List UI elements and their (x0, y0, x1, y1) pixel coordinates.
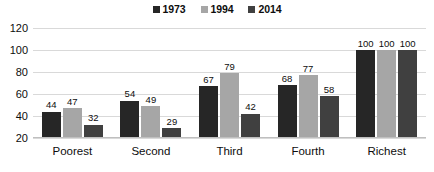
bar-slot: 100 (356, 28, 375, 138)
x-axis-category-label: Second (112, 141, 191, 161)
bar[interactable] (120, 101, 139, 138)
bar-value-label: 47 (67, 97, 78, 107)
y-axis-tick-label: 40 (16, 111, 28, 122)
bar-group: 100100100 (347, 28, 426, 138)
gridline (33, 138, 426, 139)
bar-value-label: 100 (358, 39, 374, 49)
bar-value-label: 67 (203, 75, 214, 85)
legend-swatch-icon-2014 (248, 6, 255, 13)
bar-slot: 44 (42, 28, 61, 138)
bar-group: 687758 (269, 28, 348, 138)
bar-slot: 42 (241, 28, 260, 138)
bar-slot: 49 (141, 28, 160, 138)
bar-value-label: 77 (303, 64, 314, 74)
bar[interactable] (278, 85, 297, 138)
bar-value-label: 68 (282, 74, 293, 84)
bar-group: 677942 (190, 28, 269, 138)
bar[interactable] (320, 96, 339, 138)
bar-value-label: 29 (167, 117, 178, 127)
bar-slot: 67 (199, 28, 218, 138)
bar-value-label: 100 (400, 39, 416, 49)
bar-slot: 100 (398, 28, 417, 138)
bar-value-label: 32 (88, 113, 99, 123)
bar[interactable] (220, 73, 239, 138)
bar[interactable] (356, 50, 375, 138)
y-axis-tick-label: 120 (10, 23, 28, 34)
bar-group: 444732 (33, 28, 112, 138)
bar-value-label: 100 (379, 39, 395, 49)
bar[interactable] (141, 106, 160, 138)
legend-swatch-icon-1994 (201, 6, 208, 13)
bar-slot: 79 (220, 28, 239, 138)
legend-swatch-icon-1973 (153, 6, 160, 13)
bar-value-label: 79 (224, 62, 235, 72)
legend-item-1973[interactable]: 1973 (153, 4, 186, 15)
bar-value-label: 44 (46, 100, 57, 110)
y-axis-tick-label: 60 (16, 89, 28, 100)
bar[interactable] (377, 50, 396, 138)
bar-value-label: 42 (245, 102, 256, 112)
y-axis-tick-labels: 20406080100120 (0, 28, 31, 138)
legend-item-1994[interactable]: 1994 (201, 4, 234, 15)
bar-slot: 58 (320, 28, 339, 138)
bar[interactable] (299, 75, 318, 138)
bar[interactable] (398, 50, 417, 138)
y-axis-tick-label: 100 (10, 45, 28, 56)
bar-value-label: 49 (146, 95, 157, 105)
x-axis-category-label: Third (190, 141, 269, 161)
y-axis-tick-label: 80 (16, 67, 28, 78)
bar-value-label: 58 (324, 85, 335, 95)
bar-slot: 29 (162, 28, 181, 138)
bar[interactable] (63, 108, 82, 138)
bar-group: 544929 (112, 28, 191, 138)
bar-slot: 32 (84, 28, 103, 138)
legend-item-2014[interactable]: 2014 (248, 4, 281, 15)
bar-chart: 1973 1994 2014 20406080100120 4447325449… (0, 0, 434, 172)
x-axis-category-label: Richest (347, 141, 426, 161)
legend-label-2014: 2014 (258, 4, 281, 15)
plot-area: 444732544929677942687758100100100 (33, 28, 426, 138)
bar-slot: 54 (120, 28, 139, 138)
bar[interactable] (241, 114, 260, 138)
x-axis-category-labels: PoorestSecondThirdFourthRichest (33, 141, 426, 161)
bar-slot: 100 (377, 28, 396, 138)
bar-value-label: 54 (125, 89, 136, 99)
bar-slot: 77 (299, 28, 318, 138)
bar-slot: 47 (63, 28, 82, 138)
legend-label-1973: 1973 (163, 4, 186, 15)
x-axis-category-label: Fourth (269, 141, 348, 161)
x-axis-line (33, 137, 426, 138)
x-axis-category-label: Poorest (33, 141, 112, 161)
bar[interactable] (42, 112, 61, 138)
y-axis-tick-label: 20 (16, 133, 28, 144)
bar-groups: 444732544929677942687758100100100 (33, 28, 426, 138)
legend-label-1994: 1994 (211, 4, 234, 15)
chart-legend: 1973 1994 2014 (0, 2, 434, 16)
bar[interactable] (199, 86, 218, 138)
bar-slot: 68 (278, 28, 297, 138)
